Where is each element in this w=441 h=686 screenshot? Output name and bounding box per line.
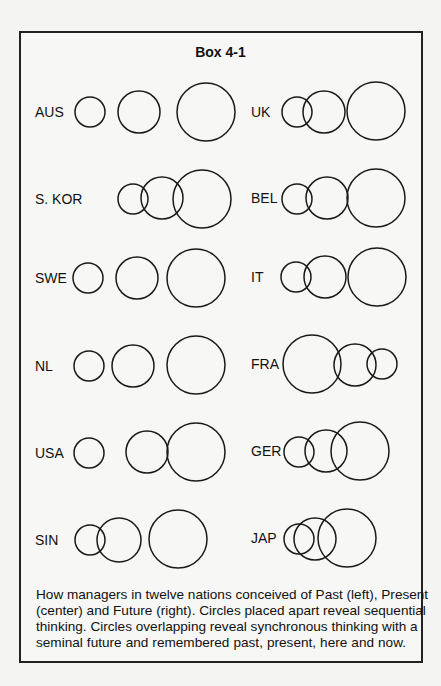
nation-label: USA <box>35 445 64 461</box>
nation-group-it: IT <box>251 248 406 306</box>
caption-line-1: How managers in twelve nations conceived… <box>36 587 406 603</box>
time-circles-diagram: AUSUKS. KORBELSWEITNLFRAUSAGERSINJAP <box>0 0 441 686</box>
present-circle <box>97 518 141 562</box>
future-circle <box>167 423 225 481</box>
nation-label: FRA <box>251 356 280 372</box>
present-circle <box>118 91 160 133</box>
past-circle <box>284 437 314 467</box>
nation-group-nl: NL <box>35 336 225 394</box>
nation-label: SWE <box>35 270 67 286</box>
nation-group-aus: AUS <box>35 83 235 141</box>
past-circle <box>74 438 104 468</box>
caption-line-3: thinking. Circles overlapping reveal syn… <box>36 619 406 635</box>
figure-caption: How managers in twelve nations conceived… <box>36 587 406 651</box>
caption-line-4: seminal future and remembered past, pres… <box>36 635 406 651</box>
caption-line-2: (center) and Future (right). Circles pla… <box>36 603 406 619</box>
nation-group-ger: GER <box>251 422 389 480</box>
nation-label: S. KOR <box>35 191 82 207</box>
nation-label: JAP <box>251 530 277 546</box>
present-circle <box>126 431 168 473</box>
past-circle <box>282 97 312 127</box>
nation-group-skor: S. KOR <box>35 170 231 228</box>
future-circle <box>348 248 406 306</box>
past-circle <box>73 263 103 293</box>
present-circle <box>303 91 345 133</box>
future-circle <box>331 422 389 480</box>
future-circle <box>167 336 225 394</box>
nation-group-sin: SIN <box>35 510 207 568</box>
nation-label: NL <box>35 358 53 374</box>
future-circle <box>318 509 376 567</box>
present-circle <box>112 345 154 387</box>
past-circle <box>284 524 314 554</box>
nation-label: UK <box>251 104 271 120</box>
future-circle <box>173 170 231 228</box>
future-circle <box>167 249 225 307</box>
nation-label: SIN <box>35 532 58 548</box>
nation-group-swe: SWE <box>35 249 225 307</box>
past-circle <box>283 335 341 393</box>
nation-label: AUS <box>35 104 64 120</box>
nation-group-uk: UK <box>251 82 405 140</box>
future-circle <box>177 83 235 141</box>
future-circle <box>347 169 405 227</box>
present-circle <box>305 430 347 472</box>
present-circle <box>116 257 158 299</box>
nation-group-fra: FRA <box>251 335 397 393</box>
present-circle <box>294 518 336 560</box>
nation-group-usa: USA <box>35 423 225 481</box>
past-circle <box>74 351 104 381</box>
future-circle <box>367 349 397 379</box>
nation-group-bel: BEL <box>251 169 405 227</box>
nation-group-jap: JAP <box>251 509 376 567</box>
nation-label: IT <box>251 269 264 285</box>
past-circle <box>75 97 105 127</box>
future-circle <box>347 82 405 140</box>
nation-label: GER <box>251 443 281 459</box>
nation-label: BEL <box>251 190 278 206</box>
future-circle <box>149 510 207 568</box>
